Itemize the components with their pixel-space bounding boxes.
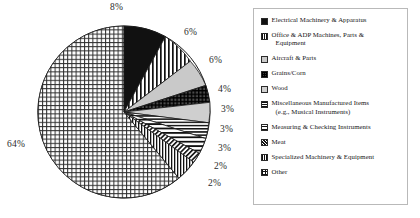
- legend-label-line2: Equipment: [272, 39, 365, 47]
- pie-label-3pct-measuring: 3%: [218, 143, 231, 153]
- legend-swatch-light-gray-icon: [261, 56, 268, 63]
- pie-label-3pct-misc: 3%: [220, 124, 233, 134]
- legend-label: Meat: [272, 138, 286, 145]
- pie-label-6pct-aircraft: 6%: [209, 55, 222, 65]
- legend-swatch-vertical-stripes-2-icon: [261, 154, 268, 161]
- legend-item-other[interactable]: Other: [261, 168, 402, 177]
- legend-box: Electrical Machinery & Apparatus Office …: [253, 8, 408, 205]
- legend-item-wood[interactable]: Wood: [261, 84, 402, 93]
- legend-label-line2: (e.g., Musical Instruments): [272, 108, 369, 116]
- legend-item-office-adp-machines[interactable]: Office & ADP Machines, Parts & Equipment: [261, 31, 402, 48]
- legend-label: Aircraft & Parts: [272, 54, 317, 61]
- legend-swatch-fine-grid-icon: [261, 169, 268, 176]
- legend-swatch-dark-crosshatch-icon: [261, 71, 268, 78]
- legend-label: Miscellaneous Manufactured Items: [272, 99, 369, 106]
- pie-label-6pct-office: 6%: [184, 27, 197, 37]
- legend-swatch-solid-black-icon: [261, 18, 268, 25]
- pie-label-64pct: 64%: [7, 139, 25, 149]
- legend-swatch-diagonal-stripes-icon: [261, 139, 268, 146]
- legend-item-aircraft-and-parts[interactable]: Aircraft & Parts: [261, 54, 402, 63]
- legend-label: Other: [272, 168, 288, 175]
- pie-label-8pct: 8%: [110, 2, 123, 12]
- legend-label: Specialized Machinery & Equipment: [272, 153, 375, 160]
- legend-label: Wood: [272, 84, 288, 91]
- legend-swatch-horizontal-stripes-wide-icon: [261, 124, 268, 131]
- legend-label: Grains/Corn: [272, 69, 306, 76]
- pie-label-2pct-specialized: 2%: [208, 178, 221, 188]
- legend-item-meat[interactable]: Meat: [261, 138, 402, 147]
- legend-swatch-vertical-stripes-icon: [261, 33, 268, 40]
- legend-swatch-horizontal-stripes-icon: [261, 101, 268, 108]
- pie-label-3pct-wood: 3%: [221, 104, 234, 114]
- legend-item-specialized-machinery-equipment[interactable]: Specialized Machinery & Equipment: [261, 153, 402, 162]
- pie-label-2pct-meat: 2%: [214, 161, 227, 171]
- legend-item-measuring-checking-instruments[interactable]: Measuring & Checking Instruments: [261, 123, 402, 132]
- legend-item-grains-corn[interactable]: Grains/Corn: [261, 69, 402, 78]
- legend-label: Electrical Machinery & Apparatus: [272, 16, 367, 23]
- pie-chart-area: 8% 6% 6% 4% 3% 3% 3% 2% 2% 64%: [0, 0, 248, 218]
- legend-item-miscellaneous-manufactured-items[interactable]: Miscellaneous Manufactured Items (e.g., …: [261, 99, 402, 116]
- legend-label: Office & ADP Machines, Parts &: [272, 31, 365, 38]
- chart-root: 8% 6% 6% 4% 3% 3% 3% 2% 2% 64% Electrica…: [0, 0, 420, 218]
- legend-swatch-light-gray-2-icon: [261, 86, 268, 93]
- pie-label-4pct: 4%: [218, 84, 231, 94]
- legend-item-electrical-machinery[interactable]: Electrical Machinery & Apparatus: [261, 16, 402, 25]
- legend-label: Measuring & Checking Instruments: [272, 123, 371, 130]
